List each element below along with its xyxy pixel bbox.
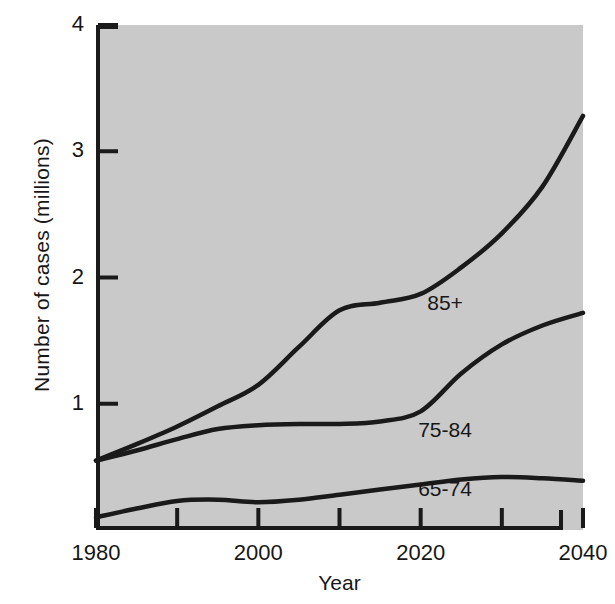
series-label-6574: 65-74 <box>418 477 472 500</box>
series-label-7584: 75-84 <box>418 418 472 441</box>
plot-background-group <box>96 25 583 530</box>
plot-background <box>96 25 583 530</box>
chart-figure: Number of cases (millions) Year 1234 198… <box>0 0 615 604</box>
plot-area: 85+75-8465-74 <box>0 0 615 604</box>
series-label-85: 85+ <box>427 291 463 314</box>
